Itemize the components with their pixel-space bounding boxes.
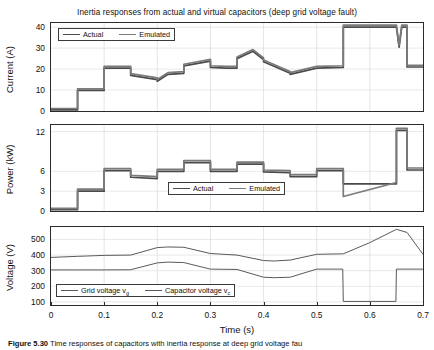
current-ytick: 40 xyxy=(0,22,45,32)
power-ytick: 0 xyxy=(0,206,45,216)
power-legend-line-swatch-icon xyxy=(229,188,246,189)
voltage-xtick: 0.1 xyxy=(98,310,110,320)
voltage-ytick: 300 xyxy=(0,266,45,276)
voltage-xtick-mark xyxy=(210,302,211,306)
voltage-xtick: 0.6 xyxy=(364,310,376,320)
voltage-xtick-mark xyxy=(51,302,52,306)
voltage-ytick: 200 xyxy=(0,281,45,291)
power-legend-label: Actual xyxy=(193,184,213,193)
figure-container: Inertia responses from actual and virtua… xyxy=(0,0,434,350)
power-legend-label: Emulated xyxy=(249,184,280,193)
power-ytick: 12 xyxy=(0,127,45,137)
panel-power-legend: ActualEmulated xyxy=(168,182,285,195)
current-legend-label: Actual xyxy=(83,30,103,39)
voltage-legend-entry: Capacitor voltage vc xyxy=(145,286,230,295)
current-legend-label: Emulated xyxy=(139,30,170,39)
panel-current: Current (A) 010203040 ActualEmulated xyxy=(0,20,434,118)
figure-caption-text: Time responses of capacitors with inerti… xyxy=(50,339,302,348)
voltage-legend-line-swatch-icon xyxy=(61,290,78,291)
voltage-legend-label: Capacitor voltage vc xyxy=(165,286,230,295)
voltage-xtick-mark xyxy=(264,302,265,306)
figure-caption: Figure 5.30 Time responses of capacitors… xyxy=(8,339,428,350)
panel-voltage-legend: Grid voltage vgCapacitor voltage vc xyxy=(56,284,235,297)
current-ytick: 30 xyxy=(0,43,45,53)
voltage-xtick-mark xyxy=(370,302,371,306)
current-legend-entry: Actual xyxy=(63,30,103,39)
voltage-ytick: 100 xyxy=(0,297,45,307)
power-ytick: 6 xyxy=(0,166,45,176)
figure-title: Inertia responses from actual and virtua… xyxy=(0,8,434,17)
voltage-xtick: 0.4 xyxy=(258,310,270,320)
voltage-xtick: 0.3 xyxy=(205,310,217,320)
panel-current-legend: ActualEmulated xyxy=(58,28,175,41)
panel-voltage-xlabel: Time (s) xyxy=(50,324,424,335)
voltage-xtick: 0 xyxy=(49,310,54,320)
current-ytick: 20 xyxy=(0,64,45,74)
voltage-legend-line-swatch-icon xyxy=(145,290,162,291)
voltage-legend-label: Grid voltage vg xyxy=(81,286,129,295)
voltage-legend-entry: Grid voltage vg xyxy=(61,286,129,295)
voltage-xtick-mark xyxy=(317,302,318,306)
figure-caption-label: Figure 5.30 xyxy=(8,339,48,348)
power-legend-line-swatch-icon xyxy=(173,188,190,189)
voltage-xtick-mark xyxy=(423,302,424,306)
power-legend-entry: Emulated xyxy=(229,184,280,193)
voltage-ytick: 400 xyxy=(0,250,45,260)
voltage-xtick: 0.5 xyxy=(311,310,323,320)
current-legend-line-swatch-icon xyxy=(63,34,80,35)
panel-voltage: Voltage (V) 100200300400500 Grid voltage… xyxy=(0,224,434,334)
voltage-ytick: 500 xyxy=(0,234,45,244)
current-legend-entry: Emulated xyxy=(119,30,170,39)
power-legend-entry: Actual xyxy=(173,184,213,193)
voltage-xtick-mark xyxy=(104,302,105,306)
current-ytick: 0 xyxy=(0,106,45,116)
panel-power: Power (kW) 03612 ActualEmulated xyxy=(0,122,434,218)
voltage-xtick: 0.7 xyxy=(417,310,429,320)
current-ytick: 10 xyxy=(0,85,45,95)
voltage-xtick-mark xyxy=(157,302,158,306)
voltage-xtick: 0.2 xyxy=(151,310,163,320)
panel-power-plot-area xyxy=(50,124,424,212)
power-ytick: 3 xyxy=(0,186,45,196)
current-legend-line-swatch-icon xyxy=(119,34,136,35)
